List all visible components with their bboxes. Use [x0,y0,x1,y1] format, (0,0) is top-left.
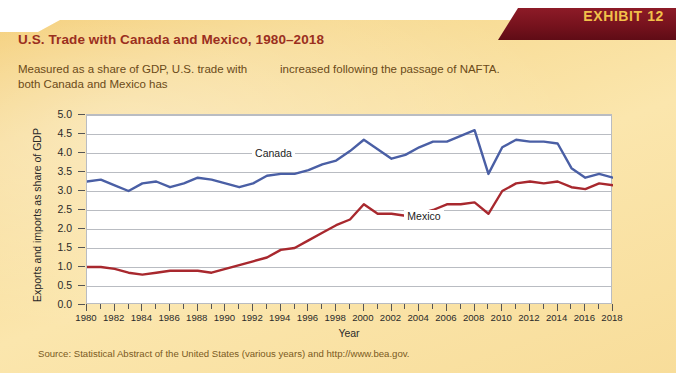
y-axis-tick-label: 3.5 [46,165,72,177]
x-axis-tick-mark [474,304,475,311]
y-axis-tick-label: 4.5 [46,127,72,139]
x-axis-tick-mark [584,304,585,311]
x-axis-tick-label: 1984 [131,312,152,323]
x-axis-tick-mark [557,304,558,311]
x-axis-tick-label: 2018 [601,312,622,323]
x-axis-tick-label: 2008 [463,312,484,323]
x-axis-tick-mark [501,304,502,311]
x-axis-tick-mark [294,304,295,309]
y-axis-tick-mark [78,228,85,229]
x-axis-tick-label: 2012 [518,312,539,323]
y-axis-tick-label: 4.0 [46,146,72,158]
subtitle: Measured as a share of GDP, U.S. trade w… [18,62,538,92]
x-axis-tick-label: 1986 [158,312,179,323]
y-axis-tick-label: 2.5 [46,203,72,215]
x-axis-tick-mark [86,304,87,311]
y-axis-tick-mark [78,304,85,305]
x-axis-tick-mark [570,304,571,309]
x-axis-tick-label: 1982 [103,312,124,323]
y-axis-tick-mark [78,171,85,172]
x-axis-tick-mark [529,304,530,311]
x-axis-tick-mark [446,304,447,311]
x-axis-tick-mark [377,304,378,309]
x-axis-tick-label: 2004 [408,312,429,323]
x-axis-tick-mark [432,304,433,309]
x-axis-tick-label: 2016 [574,312,595,323]
y-axis-tick-label: 0.5 [46,279,72,291]
x-axis-tick-label: 1996 [297,312,318,323]
x-axis-tick-mark [598,304,599,309]
y-axis-tick-label: 2.0 [46,222,72,234]
x-axis-tick-label: 2014 [546,312,567,323]
y-axis-tick-mark [78,190,85,191]
x-axis-tick-mark [335,304,336,311]
series-label-canada: Canada [252,147,295,159]
y-axis-tick-label: 1.5 [46,241,72,253]
x-axis-tick-label: 2006 [435,312,456,323]
x-axis-tick-mark [543,304,544,309]
x-axis-tick-mark [155,304,156,309]
x-axis-tick-mark [404,304,405,309]
page-title: U.S. Trade with Canada and Mexico, 1980–… [18,32,324,47]
y-axis-tick-mark [78,133,85,134]
x-axis-tick-mark [141,304,142,311]
exhibit-banner-label: EXHIBIT 12 [583,8,664,24]
y-axis-tick-mark [78,285,85,286]
y-axis-tick-label: 1.0 [46,260,72,272]
y-axis-tick-mark [78,152,85,153]
x-axis-tick-mark [487,304,488,309]
x-axis-tick-mark [349,304,350,309]
x-axis-tick-mark [252,304,253,311]
x-axis-tick-label: 1988 [186,312,207,323]
x-axis-tick-label: 1998 [324,312,345,323]
y-axis-label: Exports and imports as share of GDP [31,117,43,313]
series-line-mexico [87,182,613,275]
x-axis-tick-mark [238,304,239,309]
x-axis-tick-mark [114,304,115,311]
y-axis-tick-mark [78,209,85,210]
x-axis-tick-mark [211,304,212,309]
x-axis-tick-mark [266,304,267,309]
subtitle-column-2: increased following the passage of NAFTA… [280,62,520,92]
x-axis-label: Year [86,327,612,339]
x-axis-tick-mark [460,304,461,309]
y-axis-tick-label: 5.0 [46,108,72,120]
x-axis-tick-mark [418,304,419,311]
x-axis-tick-mark [183,304,184,309]
x-axis-tick-mark [612,304,613,311]
x-axis-tick-mark [224,304,225,311]
x-axis-tick-label: 1994 [269,312,290,323]
x-axis-tick-mark [197,304,198,311]
x-axis-tick-mark [391,304,392,311]
x-axis-tick-mark [363,304,364,311]
subtitle-column-1: Measured as a share of GDP, U.S. trade w… [18,62,258,92]
x-axis-tick-mark [321,304,322,309]
x-axis-tick-mark [128,304,129,309]
plot-region [86,114,612,304]
exhibit-panel: EXHIBIT 12 U.S. Trade with Canada and Me… [0,0,676,373]
x-axis-tick-mark [100,304,101,309]
y-axis-tick-label: 3.0 [46,184,72,196]
series-label-mexico: Mexico [404,210,443,222]
y-axis-tick-label: 0.0 [46,298,72,310]
x-axis-tick-label: 2002 [380,312,401,323]
x-axis-tick-mark [280,304,281,311]
x-axis-tick-label: 2010 [491,312,512,323]
y-axis-tick-mark [78,114,85,115]
y-axis-tick-mark [78,266,85,267]
y-axis-tick-mark [78,247,85,248]
x-axis-tick-mark [515,304,516,309]
x-axis-tick-mark [307,304,308,311]
x-axis-tick-label: 1990 [214,312,235,323]
x-axis-tick-label: 1992 [241,312,262,323]
x-axis-tick-label: 1980 [75,312,96,323]
series-layer [87,115,613,305]
source-note: Source: Statistical Abstract of the Unit… [38,348,410,359]
x-axis-tick-mark [169,304,170,311]
x-axis-tick-label: 2000 [352,312,373,323]
